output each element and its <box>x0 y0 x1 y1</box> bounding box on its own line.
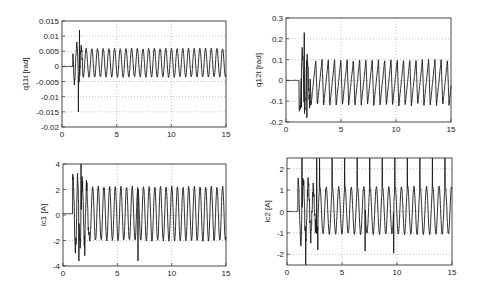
y-tick-label: -4 <box>53 262 61 271</box>
y-axis-label: Ic1 [A] <box>39 204 48 227</box>
y-tick-label: 0.3 <box>272 14 284 23</box>
x-tick-label: 10 <box>167 130 176 139</box>
y-tick-label: -1 <box>277 229 285 238</box>
y-tick-label: 0 <box>56 211 61 220</box>
y-tick-label: 1 <box>280 186 285 195</box>
signal-line-q12t <box>286 33 451 118</box>
signal-line-ic1 <box>63 164 226 261</box>
x-tick-label: 15 <box>447 125 456 134</box>
y-tick-label: 4 <box>56 160 61 169</box>
subplot-ic2: 051015-2-1012Ic2 [A] <box>263 158 457 277</box>
y-tick-label: 0 <box>55 62 60 71</box>
y-tick-label: -2 <box>277 250 285 259</box>
y-tick-label: 0.015 <box>39 17 60 26</box>
subplot-q12t: 051015-0.2-0.100.10.20.3q12t [rad] <box>254 14 456 134</box>
x-tick-label: 0 <box>285 268 290 277</box>
signal-line-ic2 <box>287 158 452 265</box>
signal-line-q11t <box>62 30 226 112</box>
y-tick-label: 0 <box>279 76 284 85</box>
y-tick-label: -0.2 <box>269 118 283 127</box>
x-tick-label: 15 <box>222 269 231 278</box>
x-tick-label: 5 <box>115 269 120 278</box>
x-tick-label: 5 <box>340 268 345 277</box>
x-tick-label: 10 <box>167 269 176 278</box>
x-tick-label: 10 <box>392 125 401 134</box>
y-tick-label: -0.01 <box>41 93 60 102</box>
y-tick-label: -2 <box>53 237 61 246</box>
axes-box <box>62 21 226 127</box>
y-axis-label: q11t [rad] <box>21 57 30 90</box>
y-tick-label: 0.2 <box>272 35 284 44</box>
y-axis-label: q12t [rad] <box>254 53 263 87</box>
axes-box <box>286 18 451 122</box>
y-tick-label: -0.02 <box>41 123 60 132</box>
y-tick-label: 2 <box>280 165 285 174</box>
x-tick-label: 0 <box>60 130 65 139</box>
x-tick-label: 0 <box>284 125 289 134</box>
y-tick-label: 0.01 <box>43 32 59 41</box>
y-tick-label: -0.1 <box>269 97 283 106</box>
y-tick-label: 0 <box>280 208 285 217</box>
figure-canvas: 051015-0.02-0.015-0.01-0.00500.0050.010.… <box>0 0 478 291</box>
y-tick-label: 0.1 <box>272 56 284 65</box>
y-tick-label: -0.005 <box>36 78 59 87</box>
x-tick-label: 15 <box>222 130 231 139</box>
x-tick-label: 5 <box>339 125 344 134</box>
subplot-q11t: 051015-0.02-0.015-0.01-0.00500.0050.010.… <box>21 17 231 139</box>
x-tick-label: 0 <box>61 269 66 278</box>
y-tick-label: 2 <box>56 186 61 195</box>
y-tick-label: 0.005 <box>39 47 60 56</box>
y-axis-label: Ic2 [A] <box>263 200 272 223</box>
x-tick-label: 10 <box>393 268 402 277</box>
x-tick-label: 5 <box>114 130 119 139</box>
x-tick-label: 15 <box>448 268 457 277</box>
figure: 051015-0.02-0.015-0.01-0.00500.0050.010.… <box>0 0 478 291</box>
subplot-ic1: 051015-4-2024Ic1 [A] <box>39 160 231 278</box>
y-tick-label: -0.015 <box>36 108 59 117</box>
